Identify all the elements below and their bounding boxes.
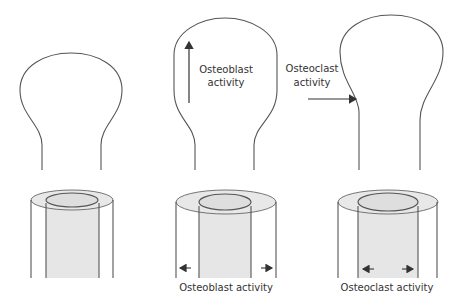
cross-section-osteoblast bbox=[176, 190, 276, 278]
osteoblast-cross-section-label: Osteoblast activity bbox=[179, 282, 273, 293]
cross-section-osteoclast bbox=[338, 190, 438, 278]
cross-section-baseline bbox=[31, 190, 113, 278]
osteoclast-label-line1: Osteoclast bbox=[286, 63, 339, 74]
osteoclast-label-line2: activity bbox=[294, 77, 331, 88]
bone-remodeling-diagram: Osteoblast activity Osteoclast activity … bbox=[0, 0, 461, 306]
osteoblast-label-line1: Osteoblast bbox=[199, 64, 253, 75]
osteoblast-label-line2: activity bbox=[208, 77, 245, 88]
osteoclast-cross-section-label: Osteoclast activity bbox=[341, 282, 434, 293]
bone-end-outline-osteoclast bbox=[340, 15, 443, 170]
bone-end-outline-baseline bbox=[20, 53, 122, 170]
